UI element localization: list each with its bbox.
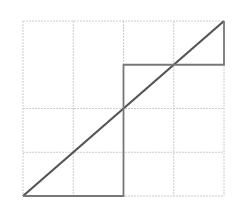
cdf-chart [0,0,241,214]
